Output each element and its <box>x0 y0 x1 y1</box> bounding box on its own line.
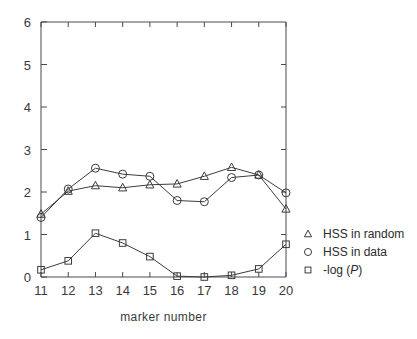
legend-item: HSS in random <box>304 227 404 241</box>
y-tick-label: 1 <box>24 228 31 243</box>
y-axis: 0123456 <box>24 15 286 285</box>
y-tick-label: 4 <box>24 100 31 115</box>
series-polyline <box>41 233 286 277</box>
triangle-marker-icon <box>304 230 311 237</box>
x-tick-label: 15 <box>143 283 157 298</box>
y-tick-label: 0 <box>24 270 31 285</box>
line-chart-svg: 012345611121314151617181920marker number… <box>0 0 417 339</box>
x-tick-label: 17 <box>197 283 211 298</box>
x-axis-title: marker number <box>120 310 207 324</box>
x-tick-label: 14 <box>115 283 129 298</box>
legend-item-label: HSS in data <box>323 245 387 259</box>
y-tick-label: 6 <box>24 15 31 30</box>
x-axis-title-text: marker number <box>120 310 207 324</box>
legend-item: HSS in data <box>304 245 387 259</box>
plot-frame <box>41 22 286 277</box>
series-square <box>38 230 290 280</box>
y-tick-label: 2 <box>24 185 31 200</box>
circle-marker-icon <box>304 248 311 255</box>
chart-figure: 012345611121314151617181920marker number… <box>0 0 417 339</box>
plot-border <box>41 22 286 277</box>
x-tick-label: 12 <box>61 283 75 298</box>
x-tick-label: 20 <box>279 283 293 298</box>
y-tick-label: 3 <box>24 143 31 158</box>
triangle-marker-icon <box>91 181 99 189</box>
triangle-marker-icon <box>146 180 154 188</box>
legend-item-label: HSS in random <box>323 227 404 241</box>
x-tick-label: 18 <box>224 283 238 298</box>
x-tick-label: 11 <box>34 283 48 298</box>
series-triangle <box>37 163 290 217</box>
series-polyline <box>41 168 286 217</box>
legend-item: -log (P) <box>305 263 362 277</box>
x-tick-label: 13 <box>88 283 102 298</box>
x-tick-label: 19 <box>252 283 266 298</box>
y-tick-label: 5 <box>24 58 31 73</box>
legend: HSS in randomHSS in data-log (P) <box>304 227 404 277</box>
legend-item-label: -log (P) <box>323 263 362 277</box>
x-tick-label: 16 <box>170 283 184 298</box>
triangle-marker-icon <box>228 163 236 171</box>
square-marker-icon <box>305 267 311 273</box>
series-polyline <box>41 167 286 214</box>
series-layer <box>37 163 290 280</box>
